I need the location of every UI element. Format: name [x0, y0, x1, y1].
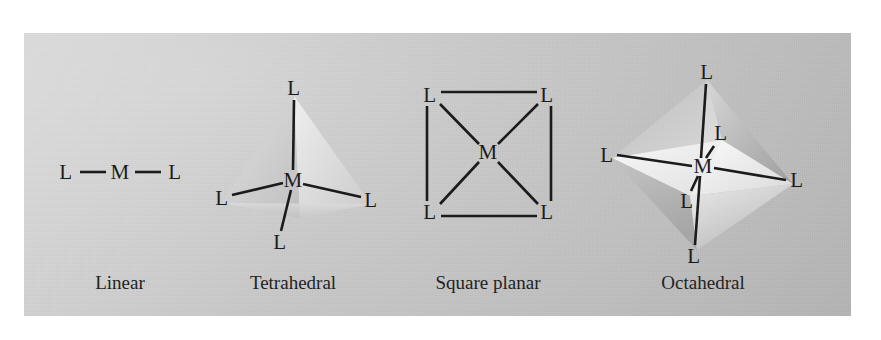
octahedral-ligand-label-left-equatorial: L	[600, 145, 613, 166]
tetrahedral-ligand-label-right: L	[364, 190, 377, 211]
square-planar-ligand-label-top-left: L	[423, 85, 436, 106]
linear-ligand-label-1: L	[59, 162, 72, 183]
tetrahedral-ligand-label-left: L	[215, 188, 228, 209]
square-planar-ligand-label-bottom-left: L	[423, 202, 436, 223]
octahedral-ligand-label-right-equatorial: L	[790, 170, 803, 191]
tetrahedral-bonds	[232, 100, 361, 231]
octahedral-ligand-label-bottom-axial: L	[687, 246, 700, 267]
octahedral-metal-label: M	[693, 156, 712, 177]
tetrahedral-ligand-label-bottom: L	[273, 232, 286, 253]
caption-square-planar: Square planar	[436, 272, 541, 294]
octahedral-ligand-label-back-equatorial: L	[714, 123, 727, 144]
tetrahedral-ligand-label-top: L	[287, 78, 300, 99]
caption-tetrahedral: Tetrahedral	[250, 272, 336, 294]
square-planar-ligand-label-bottom-right: L	[540, 202, 553, 223]
square-planar-ligand-label-top-right: L	[540, 85, 553, 106]
octahedral-ligand-label-top-axial: L	[700, 62, 713, 83]
linear-ligand-label-2: L	[168, 162, 181, 183]
linear-metal-label: M	[110, 162, 129, 183]
coordination-geometry-figure: L M L L L M L L L L M L L L L L M L L L …	[0, 0, 881, 340]
caption-octahedral: Octahedral	[661, 272, 744, 294]
caption-linear: Linear	[95, 272, 145, 294]
tetrahedral-metal-label: M	[283, 170, 302, 191]
square-planar-metal-label: M	[478, 142, 497, 163]
octahedral-ligand-label-front-equatorial: L	[680, 191, 693, 212]
